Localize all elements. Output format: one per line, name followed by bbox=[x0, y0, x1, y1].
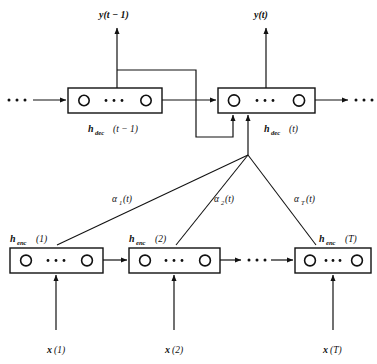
decoder-label-arg: (t − 1) bbox=[113, 124, 138, 135]
encoder-label-h-enc-T: h enc (T) bbox=[319, 233, 357, 246]
alpha-base: α bbox=[112, 194, 118, 204]
figure-root: y(t − 1) y(t) h dec (t − 1) h dec (t) α … bbox=[0, 0, 377, 364]
attention-label-alpha-1: α 1 (t) bbox=[112, 194, 132, 206]
decoder-right-ellipsis bbox=[355, 99, 374, 102]
input-label-x-2: x (2) bbox=[164, 344, 183, 356]
decoder-label-arg: (t) bbox=[289, 124, 298, 135]
output-label-y-t: y(t) bbox=[253, 9, 268, 21]
encoder-cell-h-enc-2[interactable] bbox=[129, 248, 220, 273]
decoder-cell-h-dec-t[interactable] bbox=[218, 88, 315, 113]
encoder-label-arg: (2) bbox=[155, 234, 166, 245]
decoder-node-left bbox=[228, 95, 239, 106]
encoder-label-arg: (T) bbox=[345, 234, 357, 245]
encoder-label-h-enc-1: h enc (1) bbox=[10, 233, 47, 246]
alpha-base: α bbox=[294, 194, 300, 204]
encoder-label-sub: enc bbox=[17, 239, 27, 246]
attention-label-alpha-T: α T (t) bbox=[294, 194, 315, 206]
alpha-arg: (t) bbox=[225, 194, 234, 205]
wire-attention-alpha-1 bbox=[57, 155, 248, 245]
input-label-arg: (1) bbox=[54, 345, 65, 356]
input-label-base: x bbox=[164, 344, 170, 355]
decoder-label-h-dec-t-minus-1: h dec (t − 1) bbox=[88, 123, 138, 136]
decoder-label-sub: dec bbox=[95, 129, 104, 136]
encoder-label-sub: enc bbox=[136, 239, 146, 246]
encoder-node-left bbox=[305, 255, 316, 266]
output-label-y-t-minus-1: y(t − 1) bbox=[98, 9, 129, 21]
encoder-middle-ellipsis bbox=[248, 259, 267, 262]
alpha-base: α bbox=[214, 194, 220, 204]
attention-label-alpha-2: α 2 (t) bbox=[214, 194, 234, 206]
encoder-label-base: h bbox=[319, 233, 325, 244]
input-label-arg: (T) bbox=[330, 345, 342, 356]
decoder-node-right bbox=[141, 95, 151, 105]
encoder-cell-h-enc-T[interactable] bbox=[295, 248, 371, 273]
encoder-label-base: h bbox=[129, 233, 135, 244]
input-label-x-1: x (1) bbox=[46, 344, 65, 356]
encoder-node-right bbox=[200, 255, 211, 266]
input-label-base: x bbox=[322, 344, 328, 355]
decoder-node-left bbox=[79, 95, 89, 105]
decoder-label-base: h bbox=[88, 123, 94, 134]
decoder-label-h-dec-t: h dec (t) bbox=[264, 123, 298, 136]
encoder-label-h-enc-2: h enc (2) bbox=[129, 233, 166, 246]
input-label-arg: (2) bbox=[172, 345, 183, 356]
diagram-canvas: y(t − 1) y(t) h dec (t − 1) h dec (t) α … bbox=[0, 0, 377, 364]
encoder-cell-h-enc-1[interactable] bbox=[10, 248, 103, 273]
encoder-node-right bbox=[82, 255, 93, 266]
decoder-left-ellipsis bbox=[8, 99, 27, 102]
encoder-label-arg: (1) bbox=[36, 234, 47, 245]
decoder-node-right bbox=[293, 95, 304, 106]
alpha-arg: (t) bbox=[123, 194, 132, 205]
decoder-cell-h-dec-t-minus-1[interactable] bbox=[68, 88, 162, 113]
encoder-node-right bbox=[352, 255, 363, 266]
encoder-label-base: h bbox=[10, 233, 16, 244]
input-label-base: x bbox=[46, 344, 52, 355]
encoder-node-left bbox=[21, 255, 32, 266]
encoder-label-sub: enc bbox=[326, 239, 336, 246]
alpha-arg: (t) bbox=[306, 194, 315, 205]
alpha-sub: 1 bbox=[119, 199, 122, 206]
encoder-node-left bbox=[140, 255, 151, 266]
decoder-label-sub: dec bbox=[271, 129, 280, 136]
input-label-x-T: x (T) bbox=[322, 344, 342, 356]
alpha-sub: T bbox=[301, 199, 305, 206]
decoder-label-base: h bbox=[264, 123, 270, 134]
wire-attention-alpha-2 bbox=[176, 155, 248, 245]
